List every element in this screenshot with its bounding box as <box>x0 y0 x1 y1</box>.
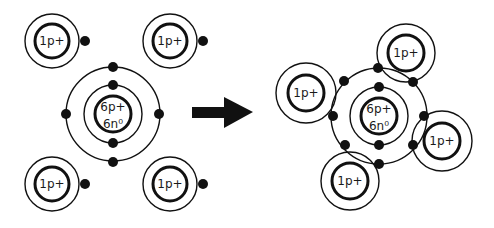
hydrogen-label: 1p+ <box>393 46 418 60</box>
carbon-protons-label: 6p+ <box>100 100 125 114</box>
electron-icon <box>198 36 208 46</box>
electron-icon <box>408 77 418 87</box>
arrow-right-icon <box>192 97 253 128</box>
electron-icon <box>340 140 350 150</box>
electron-icon <box>374 140 384 150</box>
methane-formation-diagram: 1p+ 1p+ 1p+ 1p+ 6p+ <box>0 0 494 228</box>
electron-icon <box>198 179 208 189</box>
reactants: 1p+ 1p+ 1p+ 1p+ 6p+ <box>25 14 208 211</box>
electron-icon <box>374 82 384 92</box>
carbon-atom: 6p+ 6n⁰ <box>61 62 164 167</box>
hydrogen-label: 1p+ <box>429 134 454 148</box>
hydrogen-label: 1p+ <box>157 177 182 191</box>
electron-icon <box>108 80 118 90</box>
electron-icon <box>108 157 118 167</box>
electron-icon <box>61 109 71 119</box>
hydrogen-label: 1p+ <box>337 174 362 188</box>
hydrogen-atom-left: 1p+ <box>276 63 336 123</box>
electron-icon <box>154 109 164 119</box>
electron-icon <box>408 140 418 150</box>
hydrogen-label: 1p+ <box>157 34 182 48</box>
electron-icon <box>419 111 429 121</box>
hydrogen-label: 1p+ <box>39 177 64 191</box>
carbon-protons-label: 6p+ <box>366 102 391 116</box>
electron-icon <box>80 179 90 189</box>
hydrogen-atom-bottom: 1p+ <box>321 152 379 210</box>
carbon-neutrons-label: 6n⁰ <box>369 119 389 133</box>
hydrogen-atom-top-right: 1p+ <box>143 14 208 68</box>
hydrogen-label: 1p+ <box>293 86 318 100</box>
carbon-neutrons-label: 6n⁰ <box>103 117 123 131</box>
hydrogen-label: 1p+ <box>39 34 64 48</box>
hydrogen-atom-bottom-left: 1p+ <box>25 157 90 211</box>
hydrogen-atom-bottom-right: 1p+ <box>143 157 208 211</box>
electron-icon <box>80 36 90 46</box>
electron-icon <box>108 62 118 72</box>
electron-icon <box>108 138 118 148</box>
electron-icon <box>328 111 338 121</box>
electron-icon <box>373 63 383 73</box>
hydrogen-atom-top-left: 1p+ <box>25 14 90 68</box>
product-methane: 6p+ 6n⁰ 1p+ 1p+ 1p+ 1p+ <box>276 24 472 210</box>
electron-icon <box>374 159 384 169</box>
hydrogen-atom-top: 1p+ <box>377 24 435 82</box>
electron-icon <box>339 76 349 86</box>
